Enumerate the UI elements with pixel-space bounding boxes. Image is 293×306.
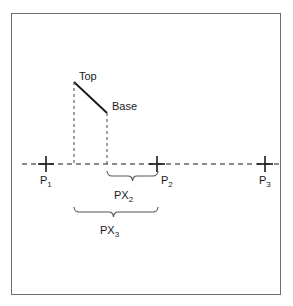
label-top: Top [79,71,97,82]
label-px2: PX2 [114,190,133,204]
top-base-segment [74,82,107,113]
label-p3: P3 [259,175,271,189]
label-p2: P2 [161,175,173,189]
point-marker-p2 [149,156,165,172]
point-marker-p3 [257,156,273,172]
point-marker-p1 [38,156,54,172]
diagram-canvas [0,0,293,306]
label-p1: P1 [40,175,52,189]
label-base: Base [112,101,137,112]
brace-px3 [74,207,158,217]
brace-px2 [107,171,158,181]
label-px3: PX3 [100,225,119,239]
